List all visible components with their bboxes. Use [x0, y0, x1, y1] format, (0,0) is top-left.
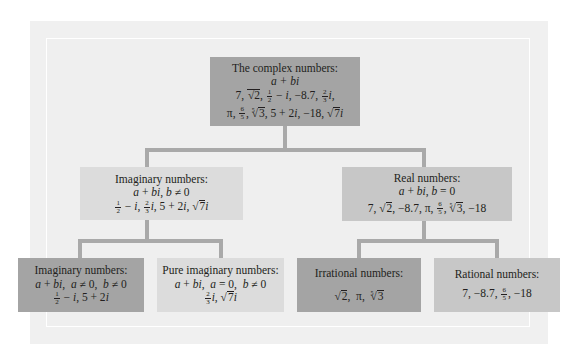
- node-examples: √2, π, 5√3: [334, 287, 383, 304]
- connector-to-irrational: [357, 239, 361, 258]
- node-examples: 7, √2, −8.7, π, 65, 5√3, −18: [368, 199, 487, 217]
- node-examples: 23i, √7i: [204, 291, 237, 306]
- node-real-numbers: Real numbers: a + bi, b = 0 7, √2, −8.7,…: [342, 167, 512, 221]
- node-title: The complex numbers:: [232, 62, 338, 76]
- node-examples-line1: 7, √2, 12 − i, −8.7, 23i,: [235, 89, 334, 104]
- connector-to-rational: [495, 239, 499, 258]
- node-irrational-numbers: Irrational numbers: √2, π, 5√3: [297, 258, 421, 312]
- connector-level2-right-horizontal: [357, 239, 499, 243]
- node-title: Imaginary numbers:: [35, 264, 128, 278]
- connector-to-real: [422, 148, 426, 167]
- connector-level1-horizontal: [145, 148, 426, 152]
- node-complex-numbers: The complex numbers: a + bi 7, √2, 12 − …: [210, 57, 360, 126]
- node-condition: a + bi, a = 0, b ≠ 0: [175, 278, 267, 292]
- node-examples: 12 − i, 23i, 5 + 2i, √7i: [114, 200, 208, 215]
- node-title: Irrational numbers:: [315, 267, 403, 281]
- connector-to-imaginary: [145, 148, 149, 167]
- node-condition: a + bi, b = 0: [399, 185, 455, 199]
- node-title: Imaginary numbers:: [115, 173, 208, 187]
- node-examples-line2: π, 65, 5√3, 5 + 2i, −18, √7i: [227, 104, 343, 122]
- node-form: a + bi: [271, 75, 299, 89]
- node-condition: a + bi, b ≠ 0: [133, 186, 189, 200]
- node-title: Rational numbers:: [455, 268, 540, 282]
- connector-to-pure-imaginary: [219, 239, 223, 258]
- node-rational-numbers: Rational numbers: 7, −8.7, 65, −18: [434, 258, 560, 312]
- node-title: Real numbers:: [394, 172, 461, 186]
- node-condition: a + bi, a ≠ 0, b ≠ 0: [35, 278, 126, 292]
- connector-real-down: [422, 221, 426, 241]
- connector-to-imaginary-nonpure: [78, 239, 82, 258]
- node-title: Pure imaginary numbers:: [162, 264, 278, 278]
- connector-level2-left-horizontal: [78, 239, 223, 243]
- node-examples: 12 − i, 5 + 2i: [53, 291, 109, 306]
- node-imaginary-numbers: Imaginary numbers: a + bi, b ≠ 0 12 − i,…: [80, 167, 243, 220]
- node-imaginary-nonpure: Imaginary numbers: a + bi, a ≠ 0, b ≠ 0 …: [18, 258, 144, 312]
- node-examples: 7, −8.7, 65, −18: [462, 287, 531, 302]
- node-pure-imaginary: Pure imaginary numbers: a + bi, a = 0, b…: [157, 258, 284, 312]
- connector-complex-down: [283, 126, 287, 150]
- connector-imaginary-down: [145, 220, 149, 241]
